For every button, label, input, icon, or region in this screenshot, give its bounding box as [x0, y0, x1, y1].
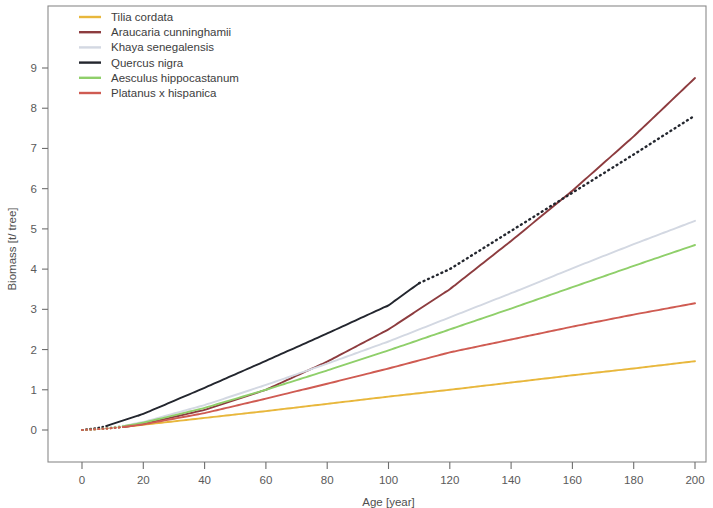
series-line-solid	[125, 78, 695, 427]
y-tick-label: 7	[31, 142, 37, 154]
legend-label: Aesculus hippocastanum	[111, 72, 239, 84]
x-axis-title: Age [year]	[362, 496, 414, 508]
y-tick-label: 3	[31, 303, 37, 315]
series-line-solid	[107, 283, 420, 426]
legend-label: Khaya senegalensis	[111, 41, 214, 53]
y-tick-label: 2	[31, 344, 37, 356]
x-axis: 020406080100120140160180200	[79, 462, 705, 486]
x-tick-label: 160	[563, 474, 582, 486]
legend-label: Araucaria cunninghamii	[111, 26, 231, 38]
y-tick-label: 5	[31, 223, 37, 235]
series-line-dotted	[419, 115, 695, 283]
y-axis-title: Biomass [t/ tree]	[6, 207, 18, 290]
biomass-age-chart: 0123456789020406080100120140160180200Age…	[0, 0, 713, 508]
y-axis: 0123456789	[31, 62, 48, 436]
x-tick-label: 80	[321, 474, 334, 486]
x-tick-label: 0	[79, 474, 85, 486]
y-tick-label: 9	[31, 62, 37, 74]
series-line-solid	[125, 245, 695, 426]
legend-label: Platanus x hispanica	[111, 87, 217, 99]
series-line-solid	[125, 361, 695, 427]
y-tick-label: 6	[31, 183, 37, 195]
curves	[82, 78, 695, 430]
x-tick-label: 100	[379, 474, 398, 486]
x-tick-label: 200	[685, 474, 704, 486]
y-tick-label: 8	[31, 102, 37, 114]
x-tick-label: 120	[440, 474, 459, 486]
legend-label: Tilia cordata	[111, 11, 174, 23]
legend: Tilia cordataAraucaria cunninghamiiKhaya…	[79, 11, 239, 99]
y-tick-label: 1	[31, 384, 37, 396]
y-tick-label: 4	[31, 263, 38, 275]
y-tick-label: 0	[31, 424, 37, 436]
x-tick-label: 60	[260, 474, 273, 486]
chart-svg: 0123456789020406080100120140160180200Age…	[0, 0, 713, 508]
x-tick-label: 140	[502, 474, 521, 486]
x-tick-label: 20	[137, 474, 150, 486]
x-tick-label: 40	[198, 474, 211, 486]
x-tick-label: 180	[624, 474, 643, 486]
legend-label: Quercus nigra	[111, 57, 184, 69]
